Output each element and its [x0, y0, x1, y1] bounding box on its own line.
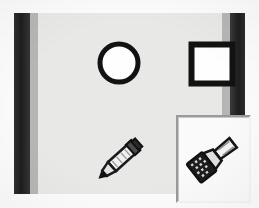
window-frame-left-rail: [14, 13, 30, 194]
tool-button-rectangle[interactable]: Rectangle: [183, 37, 241, 91]
brush-icon: [178, 117, 249, 201]
tool-button-brush[interactable]: Brush: [176, 115, 251, 203]
ellipse-icon: [90, 35, 148, 91]
tool-button-pencil[interactable]: Pencil: [88, 121, 158, 195]
tool-button-grid: Ellipse Rectangle: [38, 13, 222, 194]
tool-button-ellipse[interactable]: Ellipse: [90, 35, 148, 91]
window-frame-left-shadow: [30, 13, 38, 194]
pencil-icon: [88, 121, 158, 195]
rectangle-icon: [183, 37, 241, 91]
tool-palette-screenshot: Ellipse Rectangle: [0, 0, 259, 208]
